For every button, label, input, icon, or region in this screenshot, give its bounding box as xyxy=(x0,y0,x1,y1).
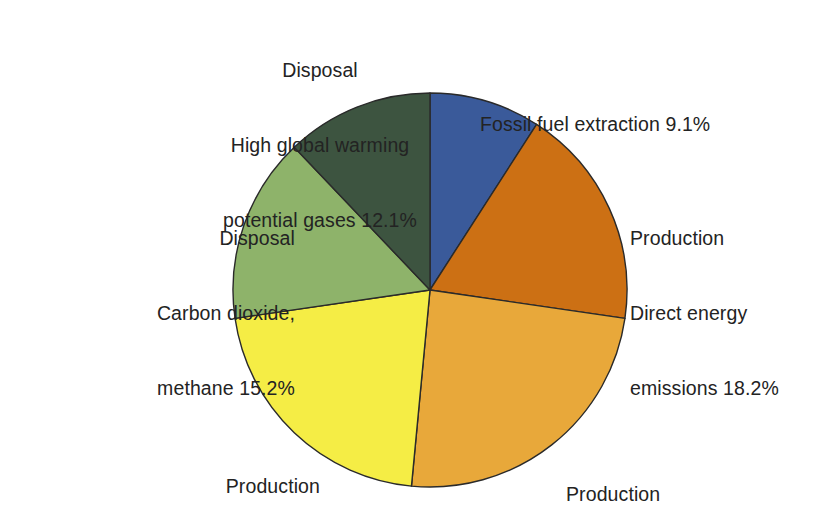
slice-label-disposal-co2-methane: Disposal Carbon dioxide, methane 15.2% xyxy=(50,176,295,451)
label-line-2: High global warming xyxy=(170,133,470,158)
label-line-1: Production xyxy=(20,474,320,499)
label-line-3: methane 15.2% xyxy=(50,376,295,401)
label-line-1: Production xyxy=(630,226,820,251)
label-line-2: Direct energy xyxy=(630,301,820,326)
label-line-1: Production xyxy=(566,482,816,507)
slice-label-production-indirect-energy: Production Indirect energy emissions 24.… xyxy=(566,432,816,529)
label-line-1: Fossil fuel extraction 9.1% xyxy=(480,112,770,137)
label-line-1: Disposal xyxy=(170,58,470,83)
label-line-3: emissions 18.2% xyxy=(630,376,820,401)
label-line-1: Disposal xyxy=(50,226,295,251)
pie-chart-figure: Disposal High global warming potential g… xyxy=(0,0,827,529)
slice-label-production-direct-energy: Production Direct energy emissions 18.2% xyxy=(630,176,820,451)
label-line-2: Carbon dioxide, xyxy=(50,301,295,326)
slice-label-fossil-fuel-extraction: Fossil fuel extraction 9.1% xyxy=(480,62,770,187)
